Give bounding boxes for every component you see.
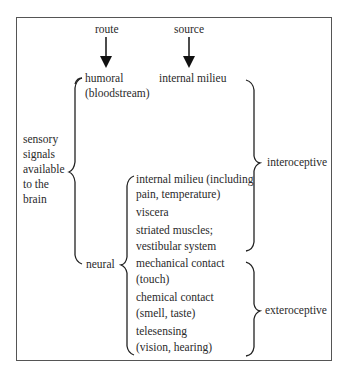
- interoceptive-label: interoceptive: [267, 155, 327, 170]
- neural-item: mechanical contact: [136, 256, 224, 272]
- sensory-line: sensory: [23, 132, 58, 147]
- route-header: route: [95, 22, 119, 37]
- exteroceptive-label: exteroceptive: [265, 303, 327, 318]
- source-header: source: [174, 22, 204, 37]
- sensory-line: brain: [23, 192, 47, 207]
- internal-milieu-top-label: internal milieu: [159, 71, 226, 86]
- sensory-brace-icon: [69, 78, 82, 264]
- neural-item: (touch): [136, 272, 169, 288]
- neural-item: vestibular system: [136, 239, 216, 255]
- neural-item: viscera: [136, 205, 169, 221]
- neural-item: chemical contact: [136, 290, 214, 306]
- neural-item: (smell, taste): [136, 306, 195, 322]
- sensory-line: to the: [23, 177, 49, 192]
- humoral-label: humoral: [85, 71, 123, 86]
- neural-brace-icon: [121, 176, 134, 355]
- neural-item: internal milieu (including: [136, 172, 254, 188]
- sensory-line: signals: [23, 147, 55, 162]
- interoceptive-brace-icon: [246, 80, 260, 251]
- neural-label: neural: [86, 257, 115, 272]
- neural-item: telesensing: [136, 324, 187, 340]
- neural-item: striated muscles;: [136, 223, 213, 239]
- neural-item: (vision, hearing): [136, 340, 212, 356]
- humoral-sublabel: (bloodstream): [85, 86, 150, 101]
- neural-item: pain, temperature): [136, 187, 220, 203]
- exteroceptive-brace-icon: [246, 262, 260, 356]
- sensory-line: available: [23, 162, 65, 177]
